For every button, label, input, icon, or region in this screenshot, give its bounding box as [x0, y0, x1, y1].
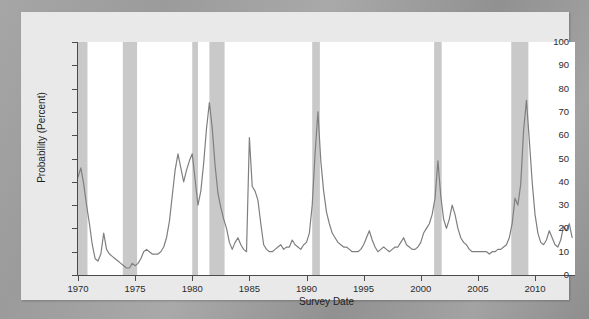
y-tick-mark: [72, 112, 77, 113]
y-tick-label: 0: [523, 270, 569, 280]
y-tick-mark: [72, 182, 77, 183]
recession-band: [434, 42, 442, 275]
x-tick-label: 2010: [513, 283, 557, 294]
x-axis-title: Survey Date: [78, 296, 575, 307]
y-tick-mark: [72, 89, 77, 90]
y-tick-label: 50: [523, 154, 569, 164]
x-tick-mark: [421, 276, 422, 281]
y-axis-line: [77, 42, 78, 276]
x-tick-label: 1990: [285, 283, 329, 294]
y-tick-label: 80: [523, 84, 569, 94]
y-tick-mark: [72, 205, 77, 206]
x-tick-label: 1985: [227, 283, 271, 294]
x-tick-label: 1980: [170, 283, 214, 294]
x-tick-mark: [307, 276, 308, 281]
recession-band: [312, 42, 320, 275]
x-tick-label: 2005: [456, 283, 500, 294]
y-tick-mark: [72, 228, 77, 229]
data-series-group: [78, 100, 572, 268]
recession-probability-plot: [78, 42, 575, 275]
data-line: [78, 100, 572, 268]
x-tick-label: 1970: [56, 283, 100, 294]
recession-shading-group: [78, 42, 528, 275]
recession-band: [78, 42, 87, 275]
y-tick-mark: [72, 275, 77, 276]
x-tick-mark: [135, 276, 136, 281]
x-tick-label: 1975: [113, 283, 157, 294]
y-tick-label: 20: [523, 223, 569, 233]
y-tick-mark: [72, 252, 77, 253]
figure-panel: 0102030405060708090100 19701975198019851…: [21, 12, 569, 300]
y-tick-mark: [72, 159, 77, 160]
x-tick-mark: [249, 276, 250, 281]
x-tick-mark: [535, 276, 536, 281]
y-tick-label: 90: [523, 60, 569, 70]
y-tick-label: 30: [523, 200, 569, 210]
recession-band: [123, 42, 137, 275]
plot-area: [78, 42, 575, 275]
y-tick-label: 60: [523, 130, 569, 140]
x-tick-mark: [364, 276, 365, 281]
y-tick-mark: [72, 135, 77, 136]
y-axis-title: Probability (Percent): [36, 58, 47, 218]
y-tick-label: 10: [523, 247, 569, 257]
y-tick-label: 70: [523, 107, 569, 117]
x-tick-label: 1995: [342, 283, 386, 294]
recession-band: [209, 42, 224, 275]
chart-screenshot: 0102030405060708090100 19701975198019851…: [0, 0, 589, 319]
y-tick-mark: [72, 65, 77, 66]
y-tick-label: 40: [523, 177, 569, 187]
x-tick-mark: [192, 276, 193, 281]
y-tick-label: 100: [523, 37, 569, 47]
x-tick-mark: [478, 276, 479, 281]
x-tick-mark: [78, 276, 79, 281]
y-tick-mark: [72, 42, 77, 43]
x-axis-line: [77, 275, 575, 276]
x-tick-label: 2000: [399, 283, 443, 294]
